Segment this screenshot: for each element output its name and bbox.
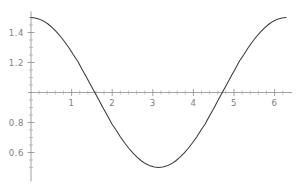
y-axis-tick-label: 1.4 bbox=[9, 28, 24, 38]
plot-container: 1234560.60.81.21.4 bbox=[0, 0, 302, 192]
y-axis-tick-label: 0.6 bbox=[9, 148, 24, 158]
x-axis-tick-label: 4 bbox=[190, 98, 196, 108]
x-axis-tick-label: 3 bbox=[150, 98, 156, 108]
y-axis-tick-label: 1.2 bbox=[9, 58, 24, 68]
x-axis-tick-label: 6 bbox=[272, 98, 278, 108]
x-axis-tick-label: 2 bbox=[109, 98, 115, 108]
x-axis-tick-label: 1 bbox=[69, 98, 75, 108]
y-axis-tick-label: 0.8 bbox=[9, 118, 24, 128]
axes-group bbox=[28, 12, 292, 182]
chart-canvas: 1234560.60.81.21.4 bbox=[0, 0, 302, 192]
x-axis-tick-label: 5 bbox=[231, 98, 237, 108]
